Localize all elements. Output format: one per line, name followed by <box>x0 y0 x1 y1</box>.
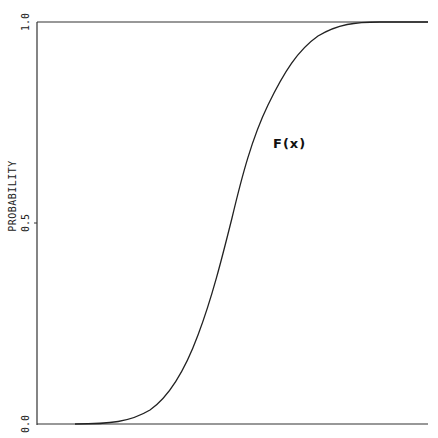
cdf-chart: 1.0 0.5 0.0 PROBABILITY F(x) <box>0 0 438 438</box>
curve-label: F(x) <box>273 136 306 151</box>
cdf-curve <box>75 22 428 424</box>
y-tick-label-bottom: 0.0 <box>20 415 31 433</box>
y-tick-label-top: 1.0 <box>20 13 31 31</box>
y-axis-title: PROBABILITY <box>7 160 18 232</box>
y-tick-label-mid: 0.5 <box>20 214 31 232</box>
